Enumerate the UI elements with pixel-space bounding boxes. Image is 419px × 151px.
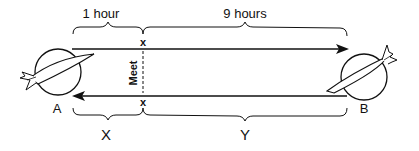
label-9-hours: 9 hours: [223, 6, 267, 21]
meet-label: Meet: [127, 60, 139, 85]
arrow-b-to-a: [72, 91, 347, 101]
bottom-brace-y: [143, 108, 347, 121]
meet-marker-bottom: x: [140, 96, 147, 108]
meet-marker-top: x: [140, 36, 147, 48]
planet-a-with-rocket-icon: [20, 49, 94, 95]
label-1-hour: 1 hour: [83, 6, 121, 21]
top-brace-9-hours: [143, 22, 347, 36]
label-y: Y: [240, 126, 250, 143]
label-x: X: [101, 126, 111, 143]
arrow-a-to-b: [72, 44, 349, 54]
label-b: B: [360, 101, 369, 116]
rocket-meeting-diagram: 1 hour 9 hours x Meet x X Y A B: [0, 0, 419, 151]
label-a: A: [53, 101, 62, 116]
top-brace-1-hour: [73, 22, 143, 34]
bottom-brace-x: [73, 108, 143, 120]
